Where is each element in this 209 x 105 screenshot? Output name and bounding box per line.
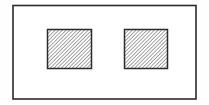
left-square xyxy=(48,30,92,69)
right-square xyxy=(125,30,168,69)
outer-rectangle xyxy=(13,6,196,100)
figure-canvas xyxy=(0,0,209,105)
diagram-svg xyxy=(0,0,209,105)
